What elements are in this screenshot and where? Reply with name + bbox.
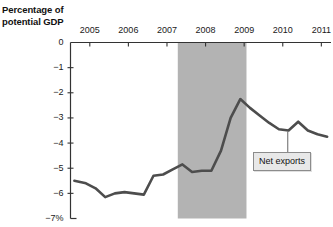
y-tick-label: −3 xyxy=(42,113,64,122)
y-tick-label: −5 xyxy=(42,164,64,173)
x-tick-label: 2005 xyxy=(73,26,107,35)
y-tick-label: 0 xyxy=(42,38,64,47)
y-tick-label: −4 xyxy=(42,139,64,148)
net-exports-callout: Net exports xyxy=(253,152,311,171)
y-tick-label: −7% xyxy=(38,214,64,223)
x-tick-label: 2009 xyxy=(227,26,261,35)
x-tick-label: 2008 xyxy=(189,26,223,35)
y-tick-label: −6 xyxy=(42,189,64,198)
x-tick-label: 2007 xyxy=(150,26,184,35)
x-tick-label: 2011 xyxy=(304,26,333,35)
x-tick-label: 2006 xyxy=(111,26,145,35)
x-tick-label: 2010 xyxy=(266,26,300,35)
chart-container: Percentage of potential GDP 0−1−2−3−4−5−… xyxy=(0,0,333,227)
y-tick-label: −1 xyxy=(42,63,64,72)
y-tick-label: −2 xyxy=(42,88,64,97)
shaded-recession-band xyxy=(178,43,247,219)
